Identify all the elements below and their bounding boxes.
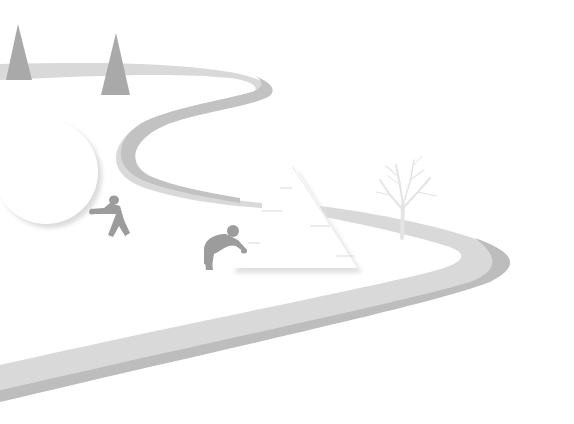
illustration-scene xyxy=(0,0,574,424)
pine-tree-left-icon xyxy=(6,24,32,80)
circle-shape xyxy=(0,120,102,228)
